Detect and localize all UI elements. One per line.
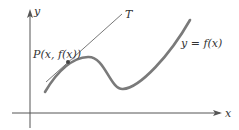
point-label: P(x, f(x)) [32,48,81,61]
tangent-label: T [125,8,134,21]
tangent-line-diagram: y x T P(x, f(x)) y = f(x) [0,0,239,130]
curve-label: y = f(x) [180,37,222,50]
x-axis-label: x [225,107,232,120]
y-axis-label: y [33,5,41,18]
